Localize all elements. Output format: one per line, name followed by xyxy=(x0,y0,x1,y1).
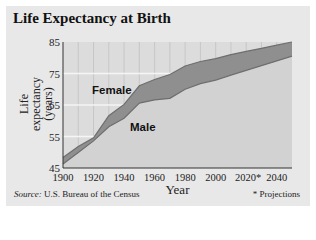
source-label: Source: xyxy=(14,189,42,199)
y-axis-label-line1: Life expectancy xyxy=(17,77,43,131)
x-tick-label: 1900 xyxy=(53,172,74,183)
female-label: Female xyxy=(92,84,132,96)
source-note: Source: U.S. Bureau of the Census xyxy=(14,189,139,199)
x-tick-label: 2020* xyxy=(235,172,261,183)
y-axis-label-line2: (years) xyxy=(41,87,55,120)
y-axis-label: Life expectancy (years) xyxy=(18,74,54,134)
x-axis-label: Year xyxy=(166,182,191,197)
x-tick-label: 1940 xyxy=(114,172,135,183)
male-label: Male xyxy=(130,121,156,133)
x-tick-label: 2000 xyxy=(205,172,226,183)
y-tick-label: 85 xyxy=(49,36,61,48)
projections-footnote: * Projections xyxy=(253,189,300,199)
x-tick-label: 1960 xyxy=(144,172,165,183)
x-tick-label: 1920 xyxy=(83,172,104,183)
x-tick-label: 2040 xyxy=(266,172,287,183)
source-text: U.S. Bureau of the Census xyxy=(42,189,140,199)
